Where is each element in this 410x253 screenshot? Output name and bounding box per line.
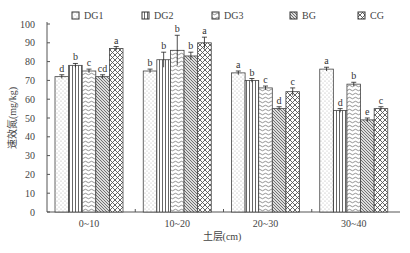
- significance-letter: a: [202, 25, 207, 36]
- y-axis-label: 速效氮(mg/kg): [6, 87, 19, 149]
- y-tick-label: 50: [25, 113, 35, 124]
- legend-label: DG2: [154, 10, 173, 21]
- bar-bg: [272, 109, 286, 212]
- bar-dg2: [69, 65, 83, 212]
- legend-swatch-cg: [358, 12, 365, 19]
- x-axis-label: 土层(cm): [203, 230, 242, 243]
- bar-dg2: [157, 60, 171, 212]
- significance-letter: b: [148, 57, 153, 68]
- bar-cg: [109, 48, 123, 212]
- bar-dg1: [320, 69, 334, 212]
- legend-swatch-dg1: [72, 12, 79, 19]
- significance-letter: d: [59, 63, 64, 74]
- bar-cg: [198, 43, 212, 212]
- y-tick-label: 90: [25, 37, 35, 48]
- x-tick-label: 0~10: [79, 218, 99, 229]
- bars: dbccdabbbbaabcdcadbec: [55, 23, 388, 212]
- significance-letter: c: [87, 57, 92, 68]
- bar-bg: [361, 120, 375, 212]
- legend-swatch-dg2: [142, 12, 149, 19]
- y-tick-label: 20: [25, 169, 35, 180]
- significance-letter: a: [114, 35, 119, 46]
- significance-letter: c: [263, 74, 268, 85]
- x-tick-label: 10~20: [165, 218, 190, 229]
- legend-swatch-dg3: [212, 12, 219, 19]
- legend-label: BG: [302, 10, 316, 21]
- y-tick-label: 100: [20, 19, 35, 30]
- legend-label: CG: [370, 10, 384, 21]
- bar-dg3: [259, 88, 273, 212]
- bar-dg1: [55, 77, 69, 212]
- y-tick-label: 70: [25, 75, 35, 86]
- bar-bg: [96, 77, 110, 212]
- x-tick-label: 30~40: [341, 218, 366, 229]
- legend-swatch-bg: [290, 12, 297, 19]
- y-tick-label: 0: [30, 207, 35, 218]
- significance-letter: b: [175, 23, 180, 34]
- legend: DG1DG2DG3BGCG: [72, 10, 384, 21]
- y-tick-label: 80: [25, 56, 35, 67]
- bar-dg1: [143, 71, 157, 212]
- legend-label: DG1: [84, 10, 103, 21]
- significance-letter: b: [249, 67, 254, 78]
- significance-letter: a: [324, 55, 329, 66]
- significance-letter: d: [338, 97, 343, 108]
- significance-letter: b: [351, 70, 356, 81]
- significance-letter: e: [365, 106, 370, 117]
- legend-label: DG3: [224, 10, 243, 21]
- y-tick-label: 30: [25, 150, 35, 161]
- y-tick-label: 40: [25, 131, 35, 142]
- y-tick-label: 60: [25, 94, 35, 105]
- significance-letter: cd: [98, 63, 107, 74]
- bar-chart: DG1DG2DG3BGCG 01020304050607080901000~10…: [0, 0, 410, 253]
- significance-letter: b: [188, 40, 193, 51]
- y-tick-label: 10: [25, 188, 35, 199]
- significance-letter: a: [236, 59, 241, 70]
- significance-letter: b: [161, 40, 166, 51]
- bar-cg: [374, 109, 388, 212]
- bar-dg2: [245, 80, 259, 212]
- bar-bg: [184, 56, 198, 212]
- bar-dg3: [170, 50, 184, 212]
- bar-dg3: [82, 71, 96, 212]
- significance-letter: c: [379, 95, 384, 106]
- bar-cg: [286, 92, 300, 212]
- bar-dg3: [347, 84, 361, 212]
- bar-dg2: [333, 110, 347, 212]
- bar-dg1: [232, 73, 246, 212]
- significance-letter: b: [73, 51, 78, 62]
- x-tick-label: 20~30: [253, 218, 278, 229]
- significance-letter: c: [290, 76, 295, 87]
- significance-letter: d: [277, 95, 282, 106]
